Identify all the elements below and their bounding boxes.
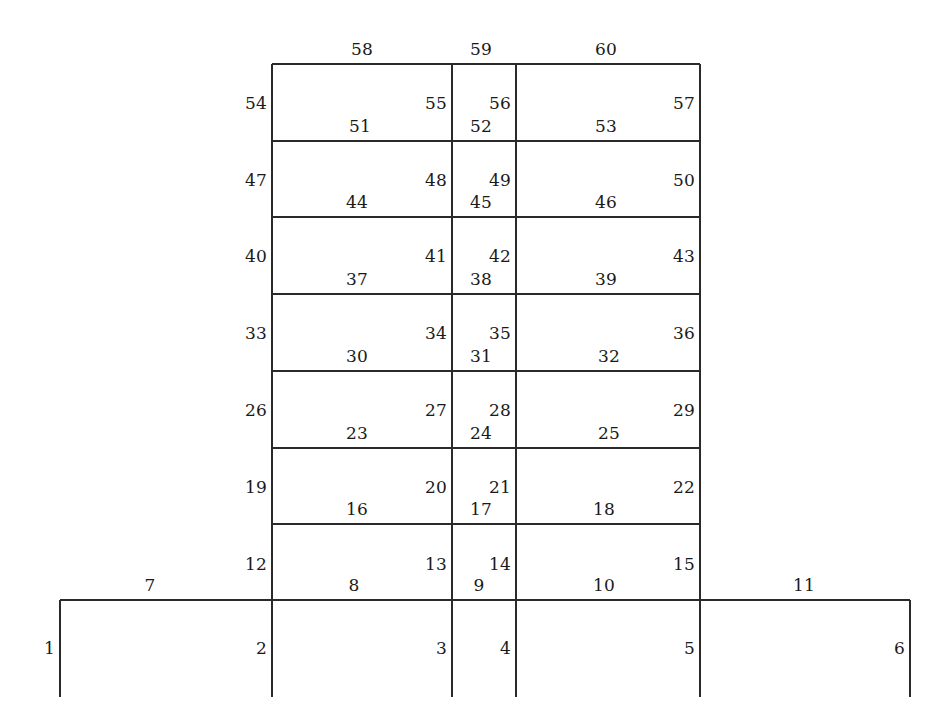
beam-member-58 xyxy=(272,63,452,65)
beam-label-39: 39 xyxy=(595,271,617,292)
column-label-56: 56 xyxy=(489,95,516,112)
beam-member-52 xyxy=(452,140,516,142)
column-label-4: 4 xyxy=(500,640,516,657)
beam-member-38 xyxy=(452,293,516,295)
beam-member-18 xyxy=(516,523,700,525)
column-label-33: 33 xyxy=(245,325,272,342)
column-label-36: 36 xyxy=(673,325,700,342)
beam-label-16: 16 xyxy=(346,501,368,522)
beam-label-58: 58 xyxy=(351,41,373,62)
beam-member-45 xyxy=(452,216,516,218)
column-label-5: 5 xyxy=(684,640,700,657)
beam-member-31 xyxy=(452,370,516,372)
column-label-6: 6 xyxy=(894,640,910,657)
column-label-34: 34 xyxy=(425,325,452,342)
beam-member-59 xyxy=(452,63,516,65)
column-label-49: 49 xyxy=(489,172,516,189)
beam-member-24 xyxy=(452,447,516,449)
column-label-20: 20 xyxy=(425,479,452,496)
column-label-21: 21 xyxy=(489,479,516,496)
column-label-13: 13 xyxy=(425,556,452,573)
beam-label-9: 9 xyxy=(473,577,484,598)
beam-member-39 xyxy=(516,293,700,295)
beam-member-9 xyxy=(452,599,516,601)
column-label-35: 35 xyxy=(489,325,516,342)
beam-label-38: 38 xyxy=(470,271,492,292)
column-label-15: 15 xyxy=(673,556,700,573)
beam-label-18: 18 xyxy=(593,501,615,522)
beam-label-24: 24 xyxy=(470,425,492,446)
column-label-40: 40 xyxy=(245,248,272,265)
beam-label-11: 11 xyxy=(793,577,815,598)
beam-label-25: 25 xyxy=(598,425,620,446)
beam-label-60: 60 xyxy=(595,41,617,62)
column-label-48: 48 xyxy=(425,172,452,189)
beam-member-32 xyxy=(516,370,700,372)
column-label-47: 47 xyxy=(245,172,272,189)
column-label-22: 22 xyxy=(673,479,700,496)
beam-member-10 xyxy=(516,599,700,601)
beam-member-46 xyxy=(516,216,700,218)
column-label-19: 19 xyxy=(245,479,272,496)
beam-member-37 xyxy=(272,293,452,295)
beam-label-32: 32 xyxy=(598,348,620,369)
column-label-28: 28 xyxy=(489,402,516,419)
beam-label-45: 45 xyxy=(470,194,492,215)
frame-diagram-canvas: 1234561213141519202122262728293334353640… xyxy=(0,0,950,727)
column-label-1: 1 xyxy=(44,640,60,657)
beam-member-25 xyxy=(516,447,700,449)
column-label-57: 57 xyxy=(673,95,700,112)
beam-label-53: 53 xyxy=(595,118,617,139)
beam-member-16 xyxy=(272,523,452,525)
column-label-27: 27 xyxy=(425,402,452,419)
beam-label-31: 31 xyxy=(470,348,492,369)
beam-label-51: 51 xyxy=(349,118,371,139)
beam-member-8 xyxy=(272,599,452,601)
beam-label-59: 59 xyxy=(470,41,492,62)
column-label-14: 14 xyxy=(489,556,516,573)
beam-label-46: 46 xyxy=(595,194,617,215)
beam-label-52: 52 xyxy=(470,118,492,139)
column-label-29: 29 xyxy=(673,402,700,419)
column-label-2: 2 xyxy=(256,640,272,657)
beam-member-51 xyxy=(272,140,452,142)
beam-label-44: 44 xyxy=(346,194,368,215)
column-label-3: 3 xyxy=(436,640,452,657)
column-label-43: 43 xyxy=(673,248,700,265)
column-label-12: 12 xyxy=(245,556,272,573)
beam-label-37: 37 xyxy=(346,271,368,292)
column-label-26: 26 xyxy=(245,402,272,419)
beam-label-7: 7 xyxy=(144,577,155,598)
beam-member-53 xyxy=(516,140,700,142)
beam-member-17 xyxy=(452,523,516,525)
column-label-54: 54 xyxy=(245,95,272,112)
column-label-55: 55 xyxy=(425,95,452,112)
column-label-42: 42 xyxy=(489,248,516,265)
beam-label-8: 8 xyxy=(348,577,359,598)
column-label-50: 50 xyxy=(673,172,700,189)
beam-label-30: 30 xyxy=(346,348,368,369)
beam-member-60 xyxy=(516,63,700,65)
beam-member-7 xyxy=(60,599,272,601)
beam-member-11 xyxy=(700,599,910,601)
beam-member-30 xyxy=(272,370,452,372)
beam-member-44 xyxy=(272,216,452,218)
beam-label-23: 23 xyxy=(346,425,368,446)
column-label-41: 41 xyxy=(425,248,452,265)
beam-label-10: 10 xyxy=(593,577,615,598)
beam-label-17: 17 xyxy=(470,501,492,522)
beam-member-23 xyxy=(272,447,452,449)
